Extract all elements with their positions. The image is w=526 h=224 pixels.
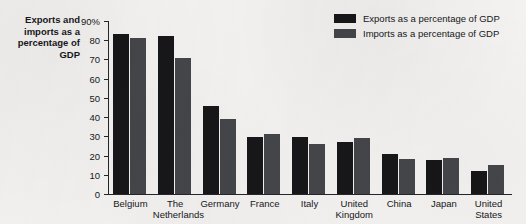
bar-imports[interactable]: [443, 158, 459, 194]
bar-group: [288, 21, 333, 194]
bar-exports[interactable]: [158, 36, 174, 194]
y-tick-mark: [104, 40, 108, 41]
legend-swatch: [334, 14, 356, 23]
y-tick-label: 60: [89, 73, 100, 84]
y-tick-mark: [104, 194, 108, 195]
y-tick-mark: [104, 98, 108, 99]
x-axis-line: [108, 194, 512, 195]
y-tick-label: 0: [95, 189, 100, 200]
y-tick-label: 80: [89, 35, 100, 46]
bar-group: [199, 21, 244, 194]
x-axis-label: United States: [466, 198, 511, 220]
y-tick-mark: [104, 156, 108, 157]
y-tick-mark: [104, 117, 108, 118]
y-tick-mark: [104, 59, 108, 60]
chart-legend: Exports as a percentage of GDPImports as…: [334, 13, 500, 43]
legend-swatch: [334, 29, 356, 38]
y-tick-label: 10: [89, 169, 100, 180]
bars-layer: [109, 21, 512, 194]
bar-imports[interactable]: [309, 144, 325, 194]
x-axis-label: China: [377, 198, 422, 209]
legend-item[interactable]: Exports as a percentage of GDP: [334, 13, 500, 24]
x-axis-label: France: [242, 198, 287, 209]
legend-label: Exports as a percentage of GDP: [363, 13, 500, 24]
bar-group: [154, 21, 199, 194]
bar-group: [109, 21, 154, 194]
bar-imports[interactable]: [220, 119, 236, 194]
y-tick-label: 50: [89, 92, 100, 103]
bar-imports[interactable]: [264, 134, 280, 194]
bar-exports[interactable]: [337, 142, 353, 194]
y-axis-title: Exports and imports as a percentage of G…: [2, 14, 80, 60]
x-axis-label: United Kingdom: [332, 198, 377, 220]
bar-group: [422, 21, 467, 194]
x-axis-label: Italy: [287, 198, 332, 209]
bar-imports[interactable]: [354, 138, 370, 194]
y-tick-mark: [104, 175, 108, 176]
bar-exports[interactable]: [203, 106, 219, 194]
y-tick-mark: [104, 21, 108, 22]
bar-exports[interactable]: [382, 154, 398, 194]
x-axis-label: Germany: [198, 198, 243, 209]
bar-imports[interactable]: [399, 159, 415, 194]
bar-exports[interactable]: [292, 137, 308, 194]
bar-exports[interactable]: [247, 137, 263, 194]
y-tick-label: 40: [89, 112, 100, 123]
x-axis-label: The Netherlands: [153, 198, 198, 220]
legend-item[interactable]: Imports as a percentage of GDP: [334, 28, 500, 39]
x-axis-label: Japan: [421, 198, 466, 209]
bar-group: [378, 21, 423, 194]
bar-imports[interactable]: [130, 38, 146, 194]
bar-group: [467, 21, 512, 194]
plot-area: 0102030405060708090% BelgiumThe Netherla…: [108, 21, 512, 194]
y-tick-label: 70: [89, 54, 100, 65]
x-axis-label: Belgium: [108, 198, 153, 209]
y-tick-label: 20: [89, 150, 100, 161]
y-tick-label: 90%: [81, 16, 100, 27]
y-tick-label: 30: [89, 131, 100, 142]
bar-imports[interactable]: [488, 165, 504, 194]
bar-group: [333, 21, 378, 194]
y-tick-mark: [104, 136, 108, 137]
bar-chart: Exports and imports as a percentage of G…: [0, 0, 526, 224]
bar-group: [243, 21, 288, 194]
bar-exports[interactable]: [113, 34, 129, 194]
legend-label: Imports as a percentage of GDP: [363, 28, 499, 39]
bar-imports[interactable]: [175, 58, 191, 194]
bar-exports[interactable]: [471, 171, 487, 194]
y-tick-mark: [104, 79, 108, 80]
bar-exports[interactable]: [426, 160, 442, 194]
